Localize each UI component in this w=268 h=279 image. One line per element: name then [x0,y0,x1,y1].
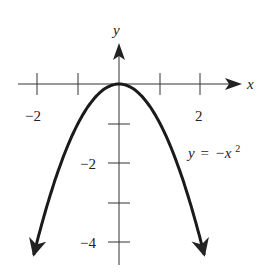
x-tick-label-2: 2 [195,108,203,124]
equation-label: y = −x 2 [186,143,240,161]
chart-canvas: x y −2 2 −2 −4 y = −x 2 [0,0,268,279]
parabola-chart: x y −2 2 −2 −4 y = −x 2 [0,0,268,279]
x-tick-label-neg2: −2 [25,108,41,124]
y-axis-label: y [111,22,120,38]
x-axis-label: x [246,76,254,92]
y-tick-label-neg4: −4 [80,235,96,251]
y-tick-label-neg2: −2 [80,156,96,172]
